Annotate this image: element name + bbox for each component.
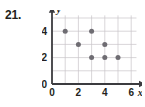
x-axis-label: x [137,87,142,98]
x-tick-label: 0 [49,87,55,98]
data-point [63,29,68,34]
y-axis-label: y [56,10,62,15]
data-point [89,55,94,60]
x-tick-label: 2 [76,87,82,98]
data-point [76,42,81,47]
x-tick-label: 4 [102,87,108,98]
data-point [102,55,107,60]
axes [49,10,142,87]
data-point [102,42,107,47]
x-tick-label: 6 [128,87,134,98]
scatter-plot: 2400246yx [42,10,142,102]
scatter-plot-svg: 2400246yx [42,10,142,102]
data-point [116,55,121,60]
y-tick-label: 4 [42,26,47,37]
y-axis-arrow [49,10,55,13]
problem-number: 21. [5,8,21,22]
data-point [89,29,94,34]
y-tick-label: 2 [42,52,47,63]
origin-label: 0 [42,79,47,90]
grid-lines [52,15,136,84]
worksheet-figure: 21. 2400246yx [0,0,145,107]
